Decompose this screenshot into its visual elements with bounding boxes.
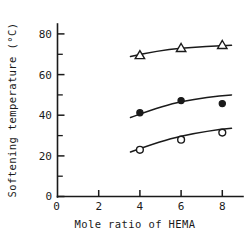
series-open-triangle — [131, 41, 232, 59]
data-point-filled-circle-x4 — [137, 110, 143, 116]
y-tick-label-80: 80 — [39, 28, 52, 41]
data-point-filled-circle-x6 — [178, 98, 184, 104]
y-tick-label-60: 60 — [39, 69, 52, 82]
series-filled-circle — [131, 95, 232, 118]
data-point-filled-circle-x8 — [219, 101, 225, 107]
x-tick-label-2: 2 — [95, 200, 102, 213]
data-point-open-circle-x6 — [178, 136, 185, 143]
x-axis-title: Mole ratio of HEMA — [75, 218, 196, 230]
softening-temperature-plot: 80 60 40 20 0 0 2 4 6 8 Mole ratio of HE… — [0, 0, 250, 240]
x-axis-major-ticks — [99, 190, 223, 197]
y-axis-major-ticks — [58, 34, 65, 197]
data-point-triangle-x8 — [218, 41, 227, 49]
data-point-open-circle-x8 — [219, 129, 226, 136]
x-tick-label-4: 4 — [137, 200, 144, 213]
y-axis-title: Softening temperature (°C) — [6, 23, 18, 198]
y-tick-label-0: 0 — [45, 190, 52, 203]
x-tick-label-0: 0 — [53, 200, 60, 213]
y-tick-label-20: 20 — [39, 150, 52, 163]
series-open-circle — [131, 128, 232, 153]
x-tick-label-6: 6 — [178, 200, 185, 213]
chart-figure: 80 60 40 20 0 0 2 4 6 8 Mole ratio of HE… — [0, 0, 250, 240]
y-tick-label-40: 40 — [39, 109, 52, 122]
x-tick-label-8: 8 — [219, 200, 226, 213]
data-point-open-circle-x4 — [137, 146, 144, 153]
